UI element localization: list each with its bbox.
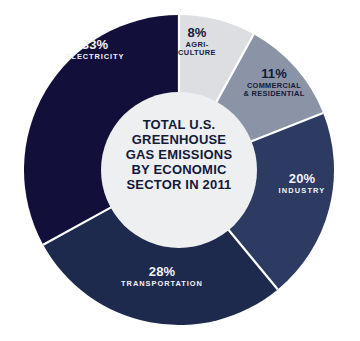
slice-name-transportation: TRANSPORTATION	[96, 280, 228, 288]
slice-label-electricity: 33% ELECTRICITY	[42, 38, 148, 61]
slice-percent-agriculture: 8%	[168, 26, 226, 39]
slice-label-industry: 20% INDUSTRY	[266, 172, 338, 195]
slice-label-transportation: 28% TRANSPORTATION	[96, 265, 228, 288]
center-title-line-4: BY ECONOMIC	[103, 162, 255, 177]
center-title-line-1: TOTAL U.S.	[103, 117, 255, 132]
slice-percent-industry: 20%	[266, 172, 338, 185]
slice-percent-commercial-residential: 11%	[222, 67, 326, 80]
chart-center-title: TOTAL U.S. GREENHOUSE GAS EMISSIONS BY E…	[103, 117, 255, 192]
center-title-line-2: GREENHOUSE	[103, 132, 255, 147]
center-title-line-5: SECTOR IN 2011	[103, 177, 255, 192]
slice-name-commercial-residential: COMMERCIAL & RESIDENTIAL	[222, 82, 326, 97]
slice-percent-electricity: 33%	[42, 38, 148, 51]
donut-chart: 33% ELECTRICITY 8% AGRI- CULTURE 11% COM…	[0, 0, 360, 341]
center-title-line-3: GAS EMISSIONS	[103, 147, 255, 162]
slice-name-electricity: ELECTRICITY	[42, 53, 148, 61]
slice-percent-transportation: 28%	[96, 265, 228, 278]
slice-name-industry: INDUSTRY	[266, 187, 338, 195]
slice-name-agriculture: AGRI- CULTURE	[168, 41, 226, 56]
slice-label-agriculture: 8% AGRI- CULTURE	[168, 26, 226, 56]
slice-label-commercial-residential: 11% COMMERCIAL & RESIDENTIAL	[222, 67, 326, 97]
